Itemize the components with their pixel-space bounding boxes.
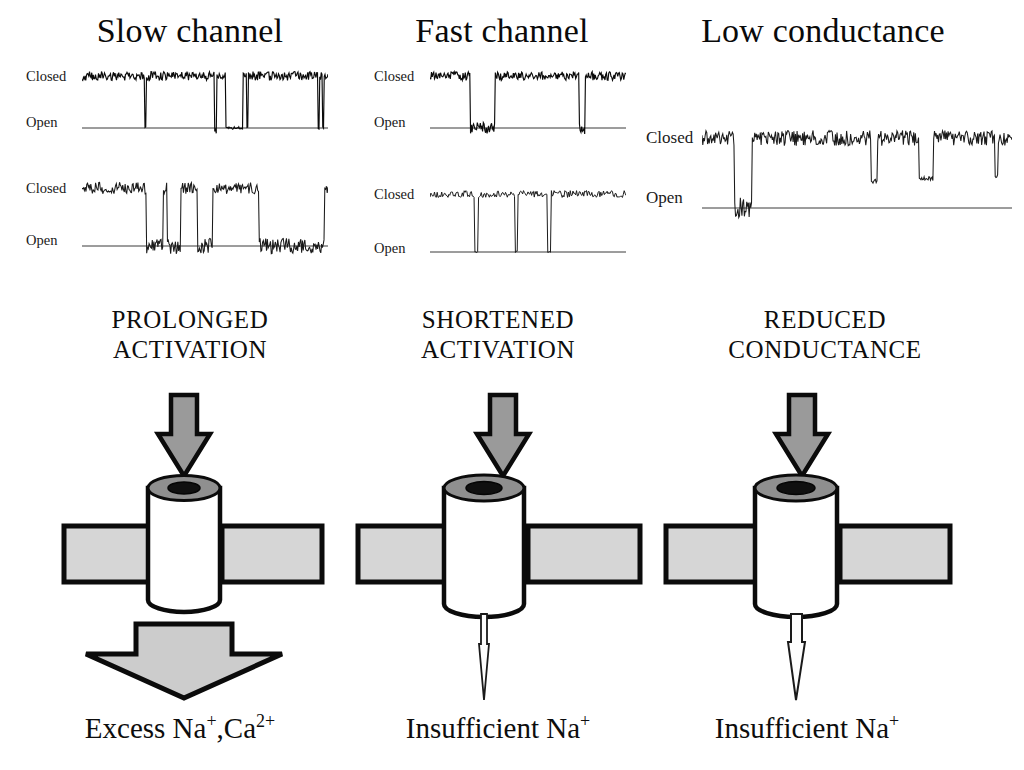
charge-superscript: 2+ xyxy=(256,711,275,731)
trace-label-closed: Closed xyxy=(374,186,414,203)
influx-arrow-icon xyxy=(158,395,210,476)
channel-pore xyxy=(777,482,815,495)
bottom-label-insufficient-na-col3: Insufficient Na+ xyxy=(662,712,952,745)
influx-arrow-icon xyxy=(776,395,828,476)
efflux-arrow-needle-icon xyxy=(479,614,489,700)
trace-waveform xyxy=(702,122,1012,222)
membrane-bar-right xyxy=(840,526,950,582)
membrane-bar-right xyxy=(528,526,640,582)
efflux-arrow-needle-icon xyxy=(788,614,805,700)
channel-schematic-lowcond xyxy=(652,392,962,702)
trace-label-open: Open xyxy=(646,188,683,208)
mid-label-prolonged-activation: PROLONGED ACTIVATION xyxy=(50,305,330,365)
column-title-slow-channel: Slow channel xyxy=(40,12,340,50)
charge-superscript: + xyxy=(889,711,899,731)
channel-cylinder xyxy=(755,475,837,617)
mid-label-line1: SHORTENED xyxy=(368,305,628,335)
mid-label-line1: PROLONGED xyxy=(50,305,330,335)
channel-pore xyxy=(168,482,200,494)
bottom-label-insufficient-na-col2: Insufficient Na+ xyxy=(358,712,638,745)
trace-label-open: Open xyxy=(374,114,405,131)
mid-label-reduced-conductance: REDUCED CONDUCTANCE xyxy=(670,305,980,365)
mid-label-line2: ACTIVATION xyxy=(50,335,330,365)
membrane-bar-left xyxy=(64,526,150,582)
trace-label-closed: Closed xyxy=(26,68,66,85)
trace-waveform xyxy=(430,66,626,138)
membrane-bar-left xyxy=(358,526,448,582)
channel-schematic-slow xyxy=(14,392,334,702)
trace-slow-2: Closed Open xyxy=(0,178,340,258)
efflux-arrow-large-icon xyxy=(86,624,282,698)
trace-label-open: Open xyxy=(26,232,57,249)
charge-superscript: + xyxy=(580,711,590,731)
trace-label-closed: Closed xyxy=(26,180,66,197)
trace-label-open: Open xyxy=(374,240,405,257)
mid-label-line2: CONDUCTANCE xyxy=(670,335,980,365)
bottom-label-text-1: Insufficient Na xyxy=(715,712,889,744)
mid-label-line2: ACTIVATION xyxy=(368,335,628,365)
bottom-label-text-1: Insufficient Na xyxy=(406,712,580,744)
membrane-bar-left xyxy=(666,526,756,582)
channel-cylinder xyxy=(148,476,220,613)
membrane-bar-right xyxy=(222,526,322,582)
trace-lowcond-1: Closed Open xyxy=(640,122,1024,222)
bottom-label-text-2: ,Ca xyxy=(217,712,256,744)
channel-cylinder xyxy=(444,475,524,617)
trace-waveform xyxy=(82,66,328,138)
bottom-label-text-1: Excess Na xyxy=(85,712,207,744)
trace-waveform xyxy=(82,178,328,258)
trace-fast-2: Closed Open xyxy=(348,182,638,262)
trace-slow-1: Closed Open xyxy=(0,66,340,138)
trace-fast-1: Closed Open xyxy=(348,66,638,138)
mid-label-line1: REDUCED xyxy=(670,305,980,335)
column-title-low-conductance: Low conductance xyxy=(648,12,998,50)
channel-schematic-fast xyxy=(352,392,652,702)
channel-pore xyxy=(466,482,502,495)
column-title-fast-channel: Fast channel xyxy=(372,12,632,50)
trace-waveform xyxy=(430,182,626,262)
charge-superscript: + xyxy=(206,711,216,731)
influx-arrow-icon xyxy=(477,395,529,476)
trace-label-closed: Closed xyxy=(646,128,693,148)
trace-label-closed: Closed xyxy=(374,68,414,85)
bottom-label-excess-na-ca: Excess Na+,Ca2+ xyxy=(30,712,330,745)
mid-label-shortened-activation: SHORTENED ACTIVATION xyxy=(368,305,628,365)
trace-label-open: Open xyxy=(26,114,57,131)
